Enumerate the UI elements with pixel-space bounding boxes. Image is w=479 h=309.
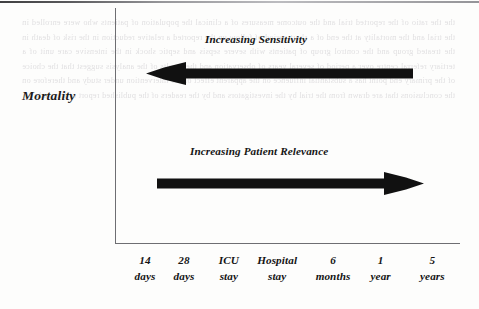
x-tick-line1: 14 [139,254,150,266]
left-arrow-increasing-sensitivity [140,58,420,90]
x-tick-1-year: 1 year [371,252,391,284]
x-tick-28-days: 28 days [174,252,195,284]
x-axis-tick-labels: 14 days 28 days ICU stay Hospital stay 6… [115,252,460,296]
y-axis-line [115,8,116,244]
figure-container: the the ratio of the reported trial and … [0,0,479,309]
y-axis-label: Mortality [22,88,76,104]
x-tick-14-days: 14 days [135,252,156,284]
increasing-sensitivity-label: Increasing Sensitivity [205,33,307,45]
x-tick-line1: 6 [330,254,336,266]
increasing-patient-relevance-label: Increasing Patient Relevance [190,145,328,157]
x-tick-hospital-stay: Hospital stay [257,252,297,284]
x-tick-line2: stay [219,268,239,284]
page-top-rule [0,1,479,3]
x-tick-line1: 28 [178,254,189,266]
x-tick-icu-stay: ICU stay [219,252,239,284]
x-tick-6-months: 6 months [316,252,351,284]
x-tick-line2: years [420,268,445,284]
x-tick-line1: 5 [430,254,436,266]
x-tick-5-years: 5 years [420,252,445,284]
x-tick-line2: days [174,268,195,284]
x-tick-line1: ICU [219,254,239,266]
x-tick-line1: 1 [378,254,384,266]
right-arrow-increasing-patient-relevance [155,168,430,200]
x-tick-line2: days [135,268,156,284]
x-tick-line2: months [316,268,351,284]
x-axis-line [115,243,460,244]
x-tick-line2: stay [257,268,297,284]
x-tick-line1: Hospital [257,254,297,266]
x-tick-line2: year [371,268,391,284]
